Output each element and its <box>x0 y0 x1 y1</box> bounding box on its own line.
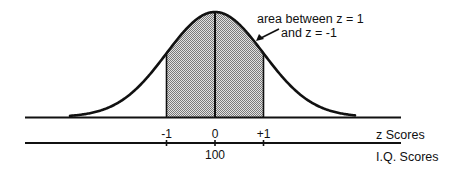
annotation-line-2: and z = -1 <box>281 26 337 40</box>
iq-tick-label: 100 <box>205 148 225 162</box>
annotation-line-1: area between z = 1 <box>257 12 364 26</box>
diagram-canvas: -1 0 +1 100 z Scores I.Q. Scores area be… <box>0 0 460 172</box>
iq-axis-label: I.Q. Scores <box>376 150 439 164</box>
z-tick-label: -1 <box>161 127 172 141</box>
z-tick-label: +1 <box>257 127 271 141</box>
z-tick-label: 0 <box>212 127 219 141</box>
z-axis-label: z Scores <box>376 128 425 142</box>
annotation-arrow <box>256 29 279 41</box>
normal-curve-diagram: -1 0 +1 100 z Scores I.Q. Scores area be… <box>0 0 460 172</box>
